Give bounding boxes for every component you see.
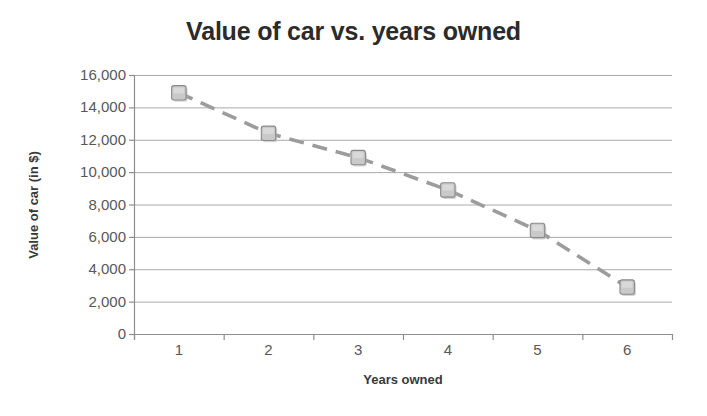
chart-figure: Value of car vs. years owned Value of ca… [0,0,707,416]
data-point-marker [441,183,457,199]
marker-gloss [442,185,453,191]
marker-gloss [173,87,184,93]
marker-gloss [353,152,364,158]
data-point-marker [351,150,367,166]
data-point-marker [172,86,188,102]
plot-area [0,0,707,416]
data-point-marker [620,280,636,296]
gridlines [134,76,672,335]
marker-gloss [532,225,543,231]
marker-gloss [263,128,274,134]
series-line [179,93,627,287]
marker-gloss [622,282,633,288]
axis-lines [129,75,673,340]
data-series [172,86,636,296]
data-point-marker [530,223,546,239]
data-point-marker [261,126,277,142]
